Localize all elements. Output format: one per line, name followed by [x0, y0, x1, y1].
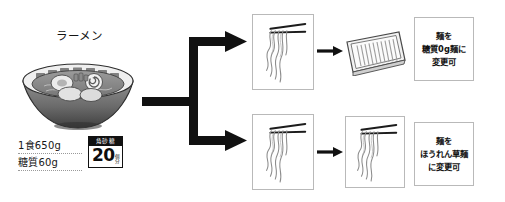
panel-noodles-bottom	[252, 114, 314, 190]
note-panel-bottom: 麺を ほうれん草麺 に変更可	[414, 122, 474, 186]
sugar-cube-badge-value: 20 個 分	[89, 146, 122, 167]
chopsticks-noodles-icon	[253, 15, 313, 89]
branching-arrow-icon	[142, 18, 252, 163]
note-bottom-line-1: 麺を	[436, 136, 452, 146]
panel-noodles-top	[252, 14, 314, 90]
stat-sugar: 糖質60g	[18, 155, 82, 171]
sugar-cube-badge-unit: 個 分	[115, 154, 120, 164]
noodle-block-icon	[341, 26, 407, 76]
sugar-cube-badge-unit-line-2: 分	[115, 159, 120, 164]
stat-serving: 1食650g	[18, 138, 82, 154]
page-title: ラーメン	[36, 27, 122, 43]
note-bottom-line-2: ほうれん草麺	[420, 149, 469, 159]
ramen-bowl-icon	[18, 50, 138, 132]
note-top-line-1: 麺を	[436, 31, 452, 41]
note-bottom-line-3: に変更可	[428, 162, 460, 172]
chopsticks-noodles-icon	[253, 115, 313, 189]
diagram-canvas: ラーメン	[0, 0, 505, 202]
sugar-cube-badge: 角砂糖 20 個 分	[88, 136, 123, 168]
arrow-right-icon-top	[317, 44, 343, 58]
chopsticks-noodles-icon	[346, 117, 404, 187]
note-top-line-2: 糖質0g麺に	[422, 44, 466, 54]
arrow-right-icon-bottom	[317, 145, 343, 159]
panel-spinach-noodles	[345, 116, 405, 188]
note-top-line-3: 変更可	[432, 57, 456, 67]
note-panel-top: 麺を 糖質0g麺に 変更可	[414, 17, 474, 81]
sugar-cube-badge-amount: 20	[92, 146, 115, 165]
